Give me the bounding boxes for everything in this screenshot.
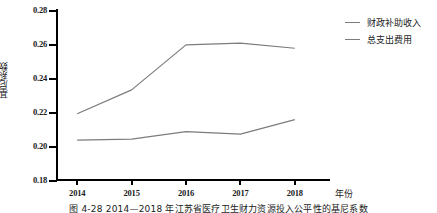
x-tick [131,180,133,185]
x-tick-label: 2017 [232,188,248,198]
legend-label: 总支出费用 [367,33,412,46]
y-tick [49,10,57,12]
x-tick-label: 2015 [123,188,139,198]
y-tick-label: 0.18 [33,175,47,185]
legend-line-icon [345,22,360,23]
x-axis-title: 年份 [335,187,353,200]
x-tick [294,180,296,185]
legend-item-0[interactable]: 财政补助收入 [345,14,421,31]
series-line-0 [77,43,295,114]
y-tick-label: 0.24 [33,73,47,83]
legend-item-1[interactable]: 总支出费用 [345,31,421,48]
plot-area: 0.180.200.220.240.260.28 201420152016201… [57,10,329,180]
y-tick-label: 0.22 [33,107,47,117]
y-tick [49,112,57,114]
legend-label: 财政补助收入 [367,16,421,29]
x-tick [76,180,78,185]
y-tick [49,146,57,148]
series-line-1 [77,120,295,140]
series-lines [57,10,329,180]
x-tick-label: 2016 [178,188,194,198]
y-tick-label: 0.20 [33,141,47,151]
chart-figure: 基尼系数 年份 0.180.200.220.240.260.28 2014201… [0,0,437,213]
legend: 财政补助收入 总支出费用 [345,14,421,48]
y-tick-label: 0.28 [33,5,47,15]
figure-caption: 图 4-28 2014—2018 年江苏省医疗卫生财力资源投入公平性的基尼系数 [0,202,437,213]
x-tick-label: 2014 [69,188,85,198]
x-tick-label: 2018 [287,188,303,198]
y-tick-label: 0.26 [33,39,47,49]
y-tick [49,44,57,46]
x-tick [185,180,187,185]
y-tick [49,180,57,182]
x-tick [239,180,241,185]
y-tick [49,78,57,80]
legend-line-icon [345,39,360,40]
y-axis-title: 基尼系数 [0,62,13,98]
